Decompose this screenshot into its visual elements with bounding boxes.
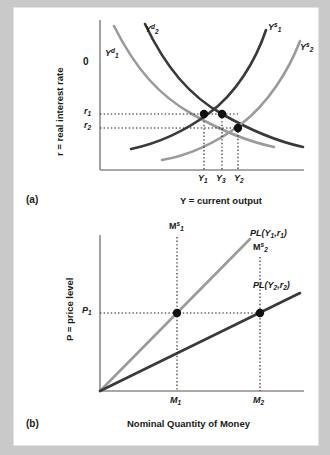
line-label-pl-y1-r1: PL(Y1,r1): [250, 229, 287, 239]
panel-b-plot: [14, 213, 318, 445]
equilibrium-dot-y1-r1: [200, 110, 208, 118]
equilibrium-dot-m1-p1: [173, 309, 181, 317]
curve-label-y1d: Yd1: [105, 48, 119, 59]
panel-b-xtick-m2: M2: [253, 396, 264, 406]
panel-a-xtick-y2: Y2: [234, 174, 244, 184]
panel-a-ytick-r2: r2: [84, 121, 91, 131]
panel-a-y-axis-title: r = real interest rate: [54, 68, 65, 156]
panel-a-ytick-r1: r1: [84, 107, 91, 117]
panel-a-origin-label: 0: [83, 56, 89, 67]
curve-y2d: [145, 24, 303, 147]
panel-a-x-axis-title: Y = current output: [180, 195, 262, 206]
panel-b: Ms1 Ms2 PL(Y1,r1) PL(Y2,r2) P1 M1 M2 P =…: [14, 213, 318, 445]
line-label-pl-y2-r2: PL(Y2,r2): [253, 281, 290, 291]
curve-label-y1s: Ys1: [268, 22, 281, 33]
money-supply-label-m1s: Ms1: [169, 221, 184, 232]
money-supply-label-m2s: Ms2: [253, 242, 268, 253]
equilibrium-dot-y3-r1: [218, 110, 226, 118]
panel-b-xtick-m1: M1: [170, 396, 181, 406]
panel-b-y-axis-title: P = price level: [64, 278, 75, 341]
panel-a-xtick-y3: Y3: [216, 174, 226, 184]
equilibrium-dot-m2-p1: [256, 309, 264, 317]
curve-label-y2s: Ys2: [300, 42, 313, 53]
line-pl-y2-r2: [100, 293, 300, 391]
equilibrium-dot-y2-r2: [234, 124, 242, 132]
panel-b-letter: (b): [26, 418, 39, 429]
figure-card: Yd1 Yd2 Ys1 Ys2 0 r1 r2 Y1 Y3 Y2 r: [14, 8, 318, 445]
curve-label-y2d: Yd2: [145, 24, 159, 35]
panel-b-ytick-p1: P1: [82, 306, 92, 316]
panel-b-x-axis-title: Nominal Quantity of Money: [127, 418, 250, 429]
curve-y1s: [131, 30, 266, 149]
curve-y2s: [162, 41, 300, 160]
panel-a-xtick-y1: Y1: [198, 174, 208, 184]
panel-a-letter: (a): [26, 194, 38, 205]
panel-a: Yd1 Yd2 Ys1 Ys2 0 r1 r2 Y1 Y3 Y2 r: [14, 8, 318, 213]
